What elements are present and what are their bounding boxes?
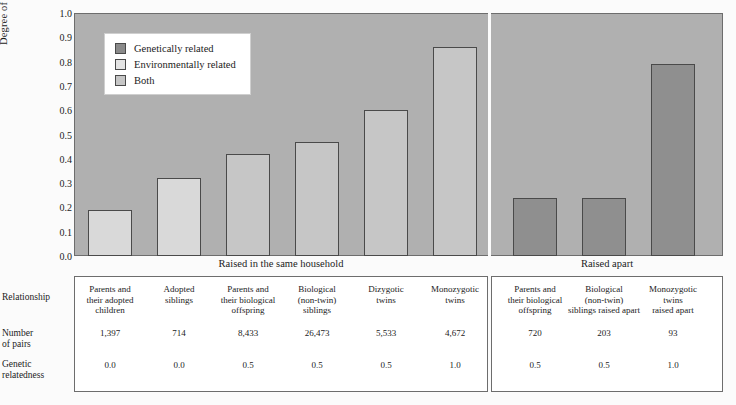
table-cell-text-line: twins bbox=[637, 295, 709, 306]
table-cell-text-line: Biological bbox=[281, 284, 353, 295]
table-cell-genetic-4: 0.5 bbox=[281, 360, 353, 371]
y-axis-tick-0.4: 0.4 bbox=[44, 153, 72, 164]
row-label-genetic-relatedness-line: Genetic bbox=[2, 359, 72, 370]
table-cell-text-line: Parents and bbox=[74, 284, 146, 295]
table-cell-relationship-7: Parents andtheir biologicaloffspring bbox=[499, 284, 571, 316]
row-label-relationship: Relationship bbox=[0, 292, 72, 303]
table-cell-text-line: siblings bbox=[143, 295, 215, 306]
table-cell-text-line: Parents and bbox=[499, 284, 571, 295]
table-cell-pairs-1: 1,397 bbox=[74, 328, 146, 339]
table-cell-pairs-9: 93 bbox=[637, 328, 709, 339]
table-cell-relationship-9: Monozygotictwinsraised apart bbox=[637, 284, 709, 316]
table-cell-genetic-7: 0.5 bbox=[499, 360, 571, 371]
table-cell-relationship-6: Monozygotictwins bbox=[419, 284, 491, 305]
table-cell-text-line: children bbox=[74, 305, 146, 316]
table-cell-relationship-2: Adoptedsiblings bbox=[143, 284, 215, 305]
y-axis-tick-0.1: 0.1 bbox=[44, 226, 72, 237]
row-label-genetic-relatedness: Geneticrelatedness bbox=[0, 359, 72, 381]
y-axis-tick-0.3: 0.3 bbox=[44, 178, 72, 189]
table-cell-text-line: twins bbox=[350, 295, 422, 306]
table-cell-genetic-5: 0.5 bbox=[350, 360, 422, 371]
table-cell-text-line: Parents and bbox=[212, 284, 284, 295]
group-divider bbox=[488, 13, 491, 256]
y-axis-tick-0.2: 0.2 bbox=[44, 202, 72, 213]
data-table: Relationship Numberof pairs Geneticrelat… bbox=[74, 276, 723, 392]
table-cell-text-line: Dizygotic bbox=[350, 284, 422, 295]
y-axis-tick-0.8: 0.8 bbox=[44, 56, 72, 67]
y-axis-tick-0.0: 0.0 bbox=[44, 251, 72, 262]
legend-label-genetic: Genetically related bbox=[134, 43, 214, 54]
table-cell-pairs-7: 720 bbox=[499, 328, 571, 339]
bar-8 bbox=[582, 198, 626, 256]
legend-swatch-genetic-icon bbox=[115, 43, 126, 54]
table-cell-pairs-5: 5,533 bbox=[350, 328, 422, 339]
table-cell-genetic-2: 0.0 bbox=[143, 360, 215, 371]
table-cell-text-line: their biological bbox=[499, 295, 571, 306]
row-label-number-of-pairs-line: Number bbox=[2, 328, 72, 339]
y-axis-tick-labels: 1.00.90.80.70.60.50.40.30.20.10.0 bbox=[44, 8, 72, 256]
legend-item-both: Both bbox=[115, 72, 236, 88]
legend-label-both: Both bbox=[134, 75, 154, 86]
y-axis-tick-0.5: 0.5 bbox=[44, 129, 72, 140]
table-cell-relationship-5: Dizygotictwins bbox=[350, 284, 422, 305]
y-axis-tick-1.0: 1.0 bbox=[44, 8, 72, 19]
table-cell-text-line: raised apart bbox=[637, 305, 709, 316]
table-cell-genetic-9: 1.0 bbox=[637, 360, 709, 371]
row-label-number-of-pairs: Numberof pairs bbox=[0, 328, 72, 350]
y-axis-tick-0.9: 0.9 bbox=[44, 32, 72, 43]
legend-swatch-both-icon bbox=[115, 75, 126, 86]
table-cell-text-line: offspring bbox=[499, 305, 571, 316]
table-cell-genetic-1: 0.0 bbox=[74, 360, 146, 371]
table-cell-pairs-4: 26,473 bbox=[281, 328, 353, 339]
y-axis-title: Degree of resemblance bbox=[0, 0, 9, 70]
table-cell-text-line: their biological bbox=[212, 295, 284, 306]
table-cell-text-line: Biological bbox=[568, 284, 640, 295]
row-label-number-of-pairs-line: of pairs bbox=[2, 339, 72, 350]
row-label-genetic-relatedness-line: relatedness bbox=[2, 370, 72, 381]
table-cell-pairs-8: 203 bbox=[568, 328, 640, 339]
table-cell-text-line: twins bbox=[419, 295, 491, 306]
legend-item-genetic: Genetically related bbox=[115, 40, 236, 56]
table-cell-pairs-6: 4,672 bbox=[419, 328, 491, 339]
table-cell-relationship-1: Parents andtheir adoptedchildren bbox=[74, 284, 146, 316]
y-axis-tick-0.6: 0.6 bbox=[44, 105, 72, 116]
table-cell-text-line: Monozygotic bbox=[419, 284, 491, 295]
table-cell-pairs-2: 714 bbox=[143, 328, 215, 339]
table-cell-genetic-8: 0.5 bbox=[568, 360, 640, 371]
bar-6 bbox=[433, 47, 477, 256]
table-cell-genetic-6: 1.0 bbox=[419, 360, 491, 371]
bar-7 bbox=[513, 198, 557, 256]
table-cell-text-line: (non-twin) bbox=[281, 295, 353, 306]
table-cell-text-line: offspring bbox=[212, 305, 284, 316]
table-cell-pairs-3: 8,433 bbox=[212, 328, 284, 339]
group-caption-apart: Raised apart bbox=[491, 258, 723, 269]
plot-area: Genetically relatedEnvironmentally relat… bbox=[74, 13, 723, 256]
table-cell-text-line: Monozygotic bbox=[637, 284, 709, 295]
table-cell-relationship-8: Biological(non-twin)siblings raised apar… bbox=[568, 284, 640, 316]
table-cell-text-line: their adopted bbox=[74, 295, 146, 306]
y-axis-tick-0.7: 0.7 bbox=[44, 80, 72, 91]
table-cell-text-line: Adopted bbox=[143, 284, 215, 295]
legend: Genetically relatedEnvironmentally relat… bbox=[104, 33, 251, 95]
legend-item-environmental: Environmentally related bbox=[115, 56, 236, 72]
bar-4 bbox=[295, 142, 339, 256]
group-caption-household: Raised in the same household bbox=[74, 258, 488, 269]
legend-label-environmental: Environmentally related bbox=[134, 59, 236, 70]
bar-1 bbox=[88, 210, 132, 256]
table-cell-relationship-4: Biological(non-twin)siblings bbox=[281, 284, 353, 316]
bar-5 bbox=[364, 110, 408, 256]
table-cell-text-line: siblings raised apart bbox=[568, 305, 640, 316]
figure-container: Degree of resemblance 1.00.90.80.70.60.5… bbox=[0, 0, 736, 405]
table-cell-genetic-3: 0.5 bbox=[212, 360, 284, 371]
table-cell-text-line: (non-twin) bbox=[568, 295, 640, 306]
bar-3 bbox=[226, 154, 270, 256]
table-cell-text-line: siblings bbox=[281, 305, 353, 316]
legend-swatch-environmental-icon bbox=[115, 59, 126, 70]
bar-9 bbox=[651, 64, 695, 256]
table-cell-relationship-3: Parents andtheir biologicaloffspring bbox=[212, 284, 284, 316]
bar-2 bbox=[157, 178, 201, 256]
